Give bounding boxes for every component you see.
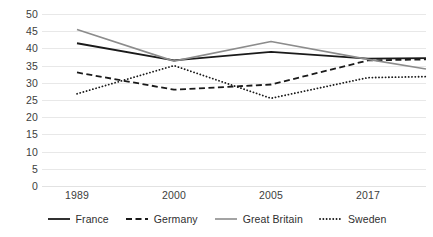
x-axis-tick-label: 2005	[259, 189, 283, 201]
legend-label: Sweden	[348, 213, 387, 225]
series-layer	[42, 14, 426, 186]
y-axis-tick-label: 45	[4, 26, 38, 36]
legend-label: Great Britain	[243, 213, 303, 225]
y-axis-tick-label: 30	[4, 78, 38, 88]
legend-label: France	[76, 213, 109, 225]
x-axis-tick-label: 1989	[65, 189, 89, 201]
series-line-germany	[77, 59, 426, 89]
solid-line-icon	[47, 214, 71, 224]
y-axis-tick-label: 0	[4, 181, 38, 191]
y-axis: 05101520253035404550	[0, 14, 38, 186]
legend-item-great-britain[interactable]: Great Britain	[214, 213, 303, 225]
y-axis-tick-label: 5	[4, 164, 38, 174]
dashed-line-icon	[125, 214, 149, 224]
plot-area	[42, 14, 426, 186]
y-axis-tick-label: 15	[4, 129, 38, 139]
y-axis-tick-label: 50	[4, 9, 38, 19]
series-line-great-britain	[77, 29, 426, 69]
gridline	[42, 186, 426, 187]
dotted-line-icon	[319, 214, 343, 224]
y-axis-tick-label: 35	[4, 61, 38, 71]
legend-item-germany[interactable]: Germany	[125, 213, 198, 225]
legend-label: Germany	[154, 213, 198, 225]
solid-line-gray-icon	[214, 214, 238, 224]
x-axis-tick-label: 2017	[356, 189, 380, 201]
y-axis-tick-label: 40	[4, 43, 38, 53]
legend-item-france[interactable]: France	[47, 213, 109, 225]
y-axis-tick-label: 20	[4, 112, 38, 122]
y-axis-tick-label: 25	[4, 95, 38, 105]
y-axis-tick-label: 10	[4, 147, 38, 157]
x-axis-tick-label: 2000	[162, 189, 186, 201]
legend-item-sweden[interactable]: Sweden	[319, 213, 387, 225]
x-axis: 1989200020052017	[42, 189, 426, 205]
chart-legend: FranceGermanyGreat BritainSweden	[0, 208, 433, 230]
line-chart: 05101520253035404550 1989200020052017 Fr…	[0, 0, 433, 237]
